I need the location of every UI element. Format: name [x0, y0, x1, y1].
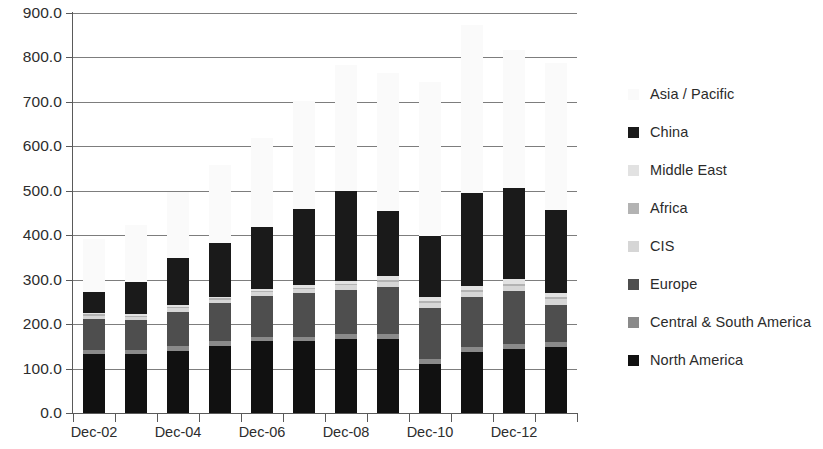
bar-stack[interactable] — [83, 13, 105, 413]
bar-segment[interactable] — [377, 334, 399, 339]
bar-segment[interactable] — [461, 290, 483, 292]
legend-item[interactable]: Middle East — [628, 162, 727, 178]
bar-stack[interactable] — [125, 13, 147, 413]
bar-segment[interactable] — [545, 342, 567, 347]
bar-segment[interactable] — [167, 258, 189, 305]
bar-segment[interactable] — [461, 347, 483, 352]
bar-segment[interactable] — [293, 293, 315, 337]
bar-segment[interactable] — [503, 349, 525, 413]
bar-segment[interactable] — [377, 282, 399, 287]
bar-segment[interactable] — [209, 303, 231, 341]
bar-segment[interactable] — [293, 341, 315, 413]
bar-stack[interactable] — [293, 13, 315, 413]
bar-segment[interactable] — [167, 307, 189, 308]
bar-segment[interactable] — [503, 284, 525, 286]
legend-item[interactable]: China — [628, 124, 688, 140]
bar-segment[interactable] — [377, 73, 399, 211]
bar-stack[interactable] — [545, 13, 567, 413]
bar-segment[interactable] — [125, 225, 147, 282]
bar-segment[interactable] — [251, 291, 273, 292]
bar-segment[interactable] — [335, 191, 357, 280]
bar-segment[interactable] — [125, 350, 147, 354]
bar-segment[interactable] — [251, 138, 273, 227]
bar-segment[interactable] — [293, 285, 315, 288]
bar-stack[interactable] — [167, 13, 189, 413]
bar-segment[interactable] — [209, 300, 231, 304]
bar-segment[interactable] — [545, 305, 567, 342]
bar-segment[interactable] — [335, 65, 357, 192]
bar-segment[interactable] — [461, 297, 483, 347]
bar-segment[interactable] — [335, 334, 357, 339]
bar-segment[interactable] — [209, 297, 231, 299]
bar-stack[interactable] — [335, 13, 357, 413]
bar-segment[interactable] — [167, 308, 189, 312]
bar-stack[interactable] — [377, 13, 399, 413]
bar-segment[interactable] — [419, 82, 441, 235]
legend-item[interactable]: Asia / Pacific — [628, 86, 734, 102]
bar-segment[interactable] — [209, 165, 231, 243]
bar-segment[interactable] — [461, 352, 483, 413]
bar-segment[interactable] — [125, 316, 147, 317]
bar-segment[interactable] — [83, 316, 105, 319]
bar-segment[interactable] — [293, 337, 315, 341]
bar-segment[interactable] — [125, 314, 147, 315]
bar-segment[interactable] — [167, 192, 189, 259]
bar-segment[interactable] — [545, 299, 567, 304]
bar-segment[interactable] — [545, 63, 567, 210]
bar-segment[interactable] — [545, 210, 567, 293]
bar-segment[interactable] — [83, 314, 105, 315]
bar-segment[interactable] — [293, 289, 315, 293]
legend-item[interactable]: CIS — [628, 238, 674, 254]
bar-segment[interactable] — [377, 287, 399, 335]
bar-segment[interactable] — [167, 351, 189, 413]
bar-stack[interactable] — [419, 13, 441, 413]
bar-segment[interactable] — [377, 339, 399, 413]
bar-segment[interactable] — [251, 296, 273, 336]
bar-segment[interactable] — [335, 339, 357, 413]
legend-item[interactable]: Europe — [628, 276, 697, 292]
bar-segment[interactable] — [293, 101, 315, 210]
legend-item[interactable]: North America — [628, 352, 743, 368]
bar-stack[interactable] — [461, 13, 483, 413]
bar-segment[interactable] — [503, 50, 525, 188]
bar-stack[interactable] — [251, 13, 273, 413]
bar-segment[interactable] — [503, 344, 525, 349]
bar-segment[interactable] — [419, 308, 441, 359]
bar-segment[interactable] — [125, 354, 147, 413]
bar-segment[interactable] — [419, 364, 441, 413]
bar-segment[interactable] — [209, 341, 231, 345]
bar-segment[interactable] — [377, 211, 399, 276]
bar-segment[interactable] — [83, 292, 105, 313]
bar-segment[interactable] — [83, 239, 105, 292]
bar-segment[interactable] — [83, 319, 105, 350]
bar-segment[interactable] — [335, 290, 357, 334]
bar-segment[interactable] — [503, 291, 525, 343]
bar-segment[interactable] — [293, 288, 315, 289]
bar-segment[interactable] — [125, 320, 147, 350]
bar-segment[interactable] — [377, 276, 399, 280]
bar-segment[interactable] — [461, 286, 483, 290]
bar-segment[interactable] — [251, 289, 273, 291]
bar-segment[interactable] — [335, 285, 357, 289]
bar-segment[interactable] — [545, 293, 567, 298]
bar-segment[interactable] — [503, 279, 525, 284]
bar-segment[interactable] — [545, 297, 567, 299]
bar-segment[interactable] — [167, 312, 189, 347]
bar-segment[interactable] — [251, 227, 273, 288]
bar-segment[interactable] — [83, 354, 105, 413]
bar-segment[interactable] — [209, 298, 231, 299]
legend-item[interactable]: Africa — [628, 200, 688, 216]
bar-segment[interactable] — [83, 350, 105, 354]
bar-segment[interactable] — [125, 317, 147, 320]
bar-segment[interactable] — [461, 292, 483, 297]
bar-segment[interactable] — [377, 280, 399, 282]
bar-segment[interactable] — [419, 303, 441, 308]
bar-stack[interactable] — [503, 13, 525, 413]
bar-segment[interactable] — [251, 337, 273, 341]
bar-segment[interactable] — [461, 193, 483, 285]
bar-segment[interactable] — [209, 243, 231, 296]
bar-segment[interactable] — [419, 236, 441, 297]
bar-segment[interactable] — [335, 281, 357, 285]
bar-segment[interactable] — [419, 359, 441, 364]
bar-segment[interactable] — [503, 286, 525, 291]
